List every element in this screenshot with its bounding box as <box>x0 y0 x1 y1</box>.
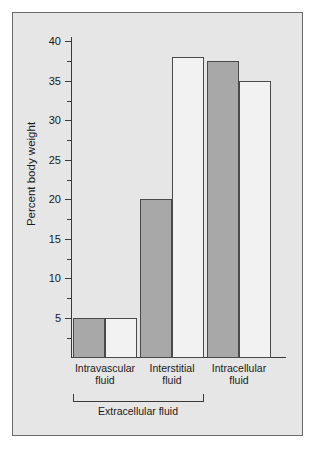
y-tick-minor-12p5 <box>67 259 72 260</box>
y-tick-label-10: 10 <box>19 273 61 284</box>
bar-intracellular-gray <box>207 61 239 358</box>
y-tick-minor-22p5 <box>67 180 72 181</box>
y-axis-line <box>71 37 72 358</box>
y-tick-20 <box>65 199 72 200</box>
y-tick-minor-7p5 <box>67 298 72 299</box>
y-tick-35 <box>65 81 72 82</box>
y-tick-label-20: 20 <box>19 194 61 205</box>
y-tick-minor-32p5 <box>67 101 72 102</box>
y-tick-label-15: 15 <box>19 234 61 245</box>
y-tick-label-35: 35 <box>19 76 61 87</box>
y-tick-label-40: 40 <box>19 36 61 47</box>
x-group-label-intracellular: Intracellular fluid <box>197 362 281 386</box>
bar-intravascular-white <box>105 318 137 358</box>
y-tick-minor-2p5 <box>67 338 72 339</box>
plot-area: Percent body weight 40 35 30 25 20 <box>13 13 304 437</box>
y-tick-label-25: 25 <box>19 155 61 166</box>
bar-intracellular-white <box>239 81 271 358</box>
y-tick-40 <box>65 41 72 42</box>
y-tick-30 <box>65 120 72 121</box>
y-tick-15 <box>65 239 72 240</box>
chart-panel: Percent body weight 40 35 30 25 20 <box>12 12 303 436</box>
bar-interstitial-white <box>172 57 204 358</box>
y-tick-minor-17p5 <box>67 219 72 220</box>
y-tick-minor-37p5 <box>67 61 72 62</box>
y-tick-25 <box>65 160 72 161</box>
bar-intravascular-gray <box>73 318 105 358</box>
extracellular-bracket-label: Extracellular fluid <box>58 405 218 417</box>
y-tick-label-5: 5 <box>19 313 61 324</box>
y-tick-label-30: 30 <box>19 115 61 126</box>
y-tick-10 <box>65 278 72 279</box>
y-tick-5 <box>65 318 72 319</box>
figure: Percent body weight 40 35 30 25 20 <box>0 0 316 451</box>
bar-interstitial-gray <box>140 199 172 358</box>
extracellular-bracket <box>73 394 204 402</box>
y-tick-minor-27p5 <box>67 140 72 141</box>
